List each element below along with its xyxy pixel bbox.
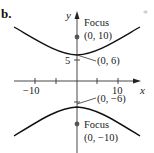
y-axis-label: y [65,9,71,21]
problem-number: b. [1,6,11,21]
lower-vertex-leader [77,98,96,104]
lower-focus-dot-icon [75,122,80,127]
upper-focus-title: Focus [84,17,109,28]
star-mark: * [143,8,148,19]
y-tick-label-5: 5 [65,55,70,66]
upper-focus-dot-icon [75,35,80,40]
x-tick-label-neg10: −10 [23,85,39,96]
lower-focus-coords: (0, −10) [84,132,118,144]
y-axis-arrow-icon [75,11,80,19]
hyperbola-graph: b. * y x −10 10 5 Focus (0, 10) (0, 6) (… [0,0,154,153]
lower-focus-title: Focus [84,119,109,130]
x-axis-label: x [139,84,145,96]
x-axis-arrow-icon [133,79,141,84]
hyperbola-figure: b. * y x −10 10 5 Focus (0, 10) (0, 6) (… [0,0,154,153]
upper-focus-coords: (0, 10) [84,30,112,42]
lower-vertex-coords: (0, −6) [97,93,126,105]
upper-vertex-coords: (0, 6) [97,55,120,67]
